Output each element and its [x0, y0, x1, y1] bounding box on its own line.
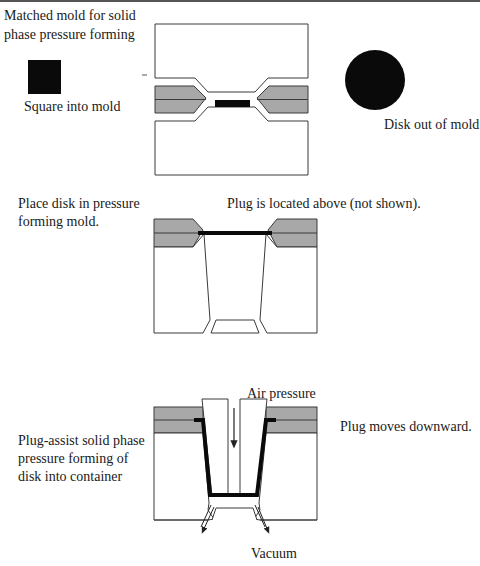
pressure-forming-mold	[154, 219, 317, 333]
process-diagram	[0, 0, 480, 566]
square-blank	[28, 60, 61, 94]
plug-assist-mold	[154, 407, 317, 520]
disk-blank	[345, 50, 405, 110]
matched-mold	[155, 24, 308, 175]
square-in-mold	[215, 100, 250, 107]
